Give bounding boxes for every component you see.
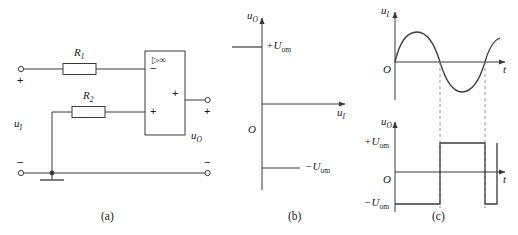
output-wave-y-axis-label: uO <box>381 116 392 130</box>
transfer-upper-level-label: +Uom <box>266 40 291 54</box>
panel-caption-a: (a) <box>101 210 114 222</box>
output-minus-sign: − <box>204 157 210 168</box>
transfer-y-axis-label: uO <box>247 10 258 24</box>
waveform-output-square <box>395 143 497 204</box>
opamp-output-sign: + <box>172 88 178 99</box>
transfer-x-axis-label: uI <box>337 107 345 121</box>
input-terminal-plus <box>18 66 23 71</box>
input-voltage-label: uI <box>14 118 22 132</box>
resistor-r1-label: R1 <box>74 47 84 61</box>
panel-caption-b: (b) <box>288 210 301 222</box>
figure-svg <box>0 0 518 235</box>
input-terminal-minus <box>18 170 23 175</box>
figure-root: R1 R2 ▷∞ − + + + − uI + − uO uO uI O +Uo… <box>0 0 518 235</box>
opamp-noninverting-input-sign: + <box>150 106 156 117</box>
resistor-r2-label: R2 <box>83 90 93 104</box>
output-plus-sign: + <box>204 106 210 117</box>
output-terminal-minus <box>205 170 210 175</box>
input-minus-sign: − <box>17 157 23 168</box>
panel-caption-c: (c) <box>432 210 445 222</box>
input-wave-origin-label: O <box>383 64 391 75</box>
input-wave-y-axis-label: uI <box>381 5 389 19</box>
output-wave-origin-label: O <box>383 174 391 185</box>
panel-a-circuit <box>18 51 210 180</box>
transfer-origin-label: O <box>248 124 256 135</box>
output-wave-x-axis-label: t <box>503 174 506 185</box>
output-wave-low-label: −Uom <box>364 197 389 211</box>
input-wave-x-axis-label: t <box>503 64 506 75</box>
opamp-inverting-input-sign: − <box>150 63 156 74</box>
input-plus-sign: + <box>17 75 23 86</box>
output-terminal-plus <box>205 97 210 102</box>
output-voltage-label: uO <box>191 130 202 144</box>
resistor-r2-body <box>72 107 105 118</box>
panel-c-waveforms <box>395 12 505 212</box>
output-wave-high-label: +Uom <box>364 136 389 150</box>
transfer-lower-level-label: −Uom <box>305 161 330 175</box>
resistor-r1-body <box>63 64 96 75</box>
